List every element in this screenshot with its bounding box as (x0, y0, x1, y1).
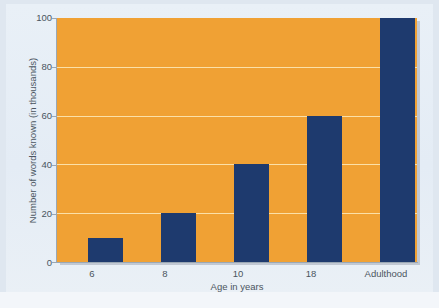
x-tick-label-adulthood: Adulthood (355, 268, 417, 279)
y-tick-label-80: 80 (24, 62, 52, 72)
gridline-80 (57, 67, 417, 68)
y-tick-label-60: 60 (24, 111, 52, 121)
bar-adulthood (380, 18, 415, 262)
gridline-60 (57, 116, 417, 117)
x-tick-label-8: 8 (143, 268, 187, 279)
x-axis-line (56, 262, 418, 263)
y-tick-label-0: 0 (24, 258, 52, 268)
plot-area (57, 18, 417, 262)
page-bottom-edge (0, 292, 439, 308)
bar-age-6 (88, 238, 123, 262)
x-axis-label: Age in years (57, 281, 417, 292)
y-tick-label-40: 40 (24, 160, 52, 170)
y-tick-label-100: 100 (24, 13, 52, 23)
bar-age-18 (307, 116, 342, 262)
x-tick-label-6: 6 (70, 268, 114, 279)
x-tick-label-18: 18 (289, 268, 333, 279)
y-axis-line (56, 18, 57, 263)
chart-figure: Number of words known (in thousands) 100… (0, 0, 439, 308)
bar-age-10 (234, 164, 269, 262)
x-tick-label-10: 10 (216, 268, 260, 279)
y-axis-tick-labels: 100 80 60 40 20 0 (18, 0, 52, 308)
y-tick-label-20: 20 (24, 209, 52, 219)
bar-age-8 (161, 213, 196, 262)
